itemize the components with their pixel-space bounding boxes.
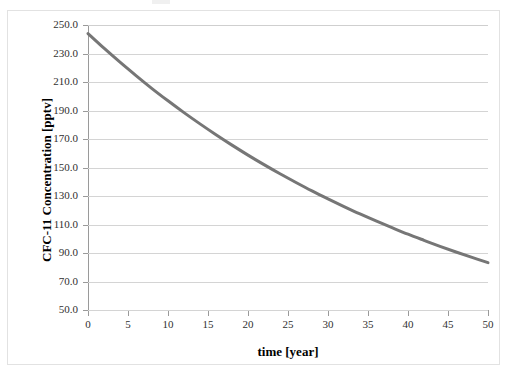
y-tick-label-wrap: 130.0 <box>30 190 78 202</box>
x-tick-mark <box>488 311 489 316</box>
x-tick-mark <box>288 311 289 316</box>
x-tick-label: 20 <box>233 319 263 330</box>
x-tick-label: 0 <box>73 319 103 330</box>
y-tick-label: 90.0 <box>34 247 78 258</box>
y-tick-label-wrap: 70.0 <box>30 276 78 288</box>
y-tick-label: 50.0 <box>34 304 78 315</box>
x-tick-label: 25 <box>273 319 303 330</box>
y-tick-label-wrap: 190.0 <box>30 105 78 117</box>
x-tick-label: 45 <box>433 319 463 330</box>
x-axis-title: time [year] <box>88 344 488 360</box>
y-tick-label: 190.0 <box>34 105 78 116</box>
gridline <box>88 310 488 311</box>
x-tick-label: 50 <box>473 319 503 330</box>
y-tick-label-wrap: 210.0 <box>30 76 78 88</box>
clipped-title-artifact <box>152 0 170 4</box>
curve-path <box>88 34 488 263</box>
y-tick-label: 210.0 <box>34 76 78 87</box>
y-axis-title: CFC-11 Concentration [pptv] <box>39 55 55 305</box>
x-tick-mark <box>248 311 249 316</box>
x-tick-mark <box>208 311 209 316</box>
y-tick-label: 230.0 <box>34 48 78 59</box>
x-tick-label: 40 <box>393 319 423 330</box>
y-tick-label-wrap: 250.0 <box>30 19 78 31</box>
x-tick-label: 30 <box>313 319 343 330</box>
y-tick-label-wrap: 230.0 <box>30 48 78 60</box>
x-tick-label: 35 <box>353 319 383 330</box>
x-tick-mark <box>368 311 369 316</box>
x-tick-mark <box>168 311 169 316</box>
x-tick-label: 10 <box>153 319 183 330</box>
y-tick-label: 250.0 <box>34 19 78 30</box>
plot-area <box>88 25 488 310</box>
data-curve <box>88 25 488 310</box>
x-tick-mark <box>128 311 129 316</box>
y-tick-label: 110.0 <box>34 219 78 230</box>
x-tick-mark <box>448 311 449 316</box>
chart-screenshot: CFC-11 Concentration [pptv] 50.070.090.0… <box>0 0 508 379</box>
x-tick-mark <box>408 311 409 316</box>
y-tick-label: 150.0 <box>34 162 78 173</box>
y-tick-label: 170.0 <box>34 133 78 144</box>
y-tick-label-wrap: 90.0 <box>30 247 78 259</box>
x-tick-mark <box>88 311 89 316</box>
x-tick-mark <box>328 311 329 316</box>
x-tick-label: 15 <box>193 319 223 330</box>
y-tick-label-wrap: 110.0 <box>30 219 78 231</box>
y-tick-label-wrap: 150.0 <box>30 162 78 174</box>
y-tick-label: 70.0 <box>34 276 78 287</box>
y-tick-label: 130.0 <box>34 190 78 201</box>
y-tick-label-wrap: 50.0 <box>30 304 78 316</box>
y-tick-label-wrap: 170.0 <box>30 133 78 145</box>
x-tick-label: 5 <box>113 319 143 330</box>
